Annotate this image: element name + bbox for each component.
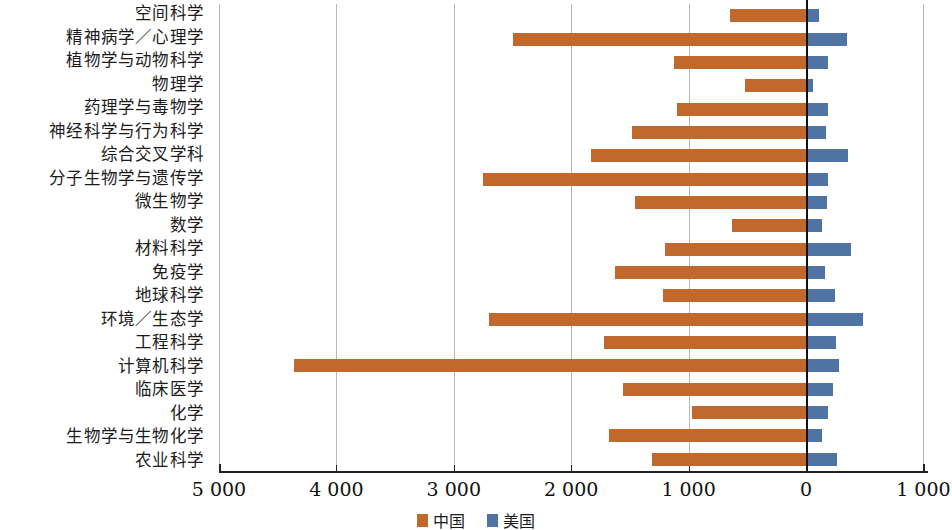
bar-china <box>615 266 806 279</box>
bar-china <box>663 289 806 302</box>
bar-china <box>623 383 806 396</box>
bar-row <box>219 448 927 471</box>
bar-row <box>219 354 927 377</box>
bar-usa <box>806 266 825 279</box>
bar-row <box>219 121 927 144</box>
x-axis-tick-label: 1 000 <box>661 478 715 500</box>
bar-china <box>732 219 806 232</box>
bar-china <box>745 79 806 92</box>
legend-item[interactable]: 中国 <box>417 508 465 530</box>
category-label: 临床医学 <box>0 380 212 400</box>
bar-usa <box>806 406 828 419</box>
legend-swatch-icon <box>417 514 428 527</box>
category-label: 材料科学 <box>0 239 212 259</box>
bar-china <box>677 103 806 116</box>
category-label: 数学 <box>0 216 212 236</box>
category-label: 计算机科学 <box>0 357 212 377</box>
bar-china <box>609 429 806 442</box>
category-label: 神经科学与行为科学 <box>0 122 212 142</box>
category-label: 微生物学 <box>0 192 212 212</box>
bar-usa <box>806 219 822 232</box>
bar-usa <box>806 383 833 396</box>
x-axis-tick-label: 5 000 <box>192 478 246 500</box>
category-label: 生物学与生物化学 <box>0 427 212 447</box>
x-axis-tick-label: 2 000 <box>544 478 598 500</box>
x-axis-tick-label: 3 000 <box>427 478 481 500</box>
bar-row <box>219 51 927 74</box>
legend-label: 中国 <box>433 508 465 530</box>
legend-item[interactable]: 美国 <box>487 508 535 530</box>
bar-china <box>483 173 806 186</box>
bar-rows <box>219 4 927 471</box>
category-label: 地球科学 <box>0 286 212 306</box>
bar-usa <box>806 243 851 256</box>
bar-usa <box>806 149 848 162</box>
bar-row <box>219 401 927 424</box>
bar-row <box>219 97 927 120</box>
bar-row <box>219 331 927 354</box>
bar-china <box>730 9 806 22</box>
bar-usa <box>806 56 828 69</box>
x-axis-tick-label: 4 000 <box>309 478 363 500</box>
category-axis-labels: 空间科学精神病学／心理学植物学与动物科学物理学药理学与毒物学神经科学与行为科学综… <box>0 4 212 471</box>
category-label: 免疫学 <box>0 263 212 283</box>
bar-china <box>591 149 806 162</box>
bar-china <box>674 56 806 69</box>
bar-row <box>219 261 927 284</box>
bar-usa <box>806 173 828 186</box>
bar-china <box>294 359 806 372</box>
bar-row <box>219 308 927 331</box>
bar-china <box>604 336 806 349</box>
category-label: 药理学与毒物学 <box>0 98 212 118</box>
bar-row <box>219 191 927 214</box>
bar-china <box>632 126 806 139</box>
bar-china <box>489 313 806 326</box>
horizontal-bar-chart: 空间科学精神病学／心理学植物学与动物科学物理学药理学与毒物学神经科学与行为科学综… <box>0 0 952 530</box>
x-axis-tick-label: 1 000 <box>896 478 950 500</box>
chart-legend: 中国美国 <box>0 508 952 530</box>
bar-row <box>219 27 927 50</box>
plot-area <box>219 4 927 471</box>
bar-usa <box>806 313 863 326</box>
bar-row <box>219 74 927 97</box>
bar-usa <box>806 359 839 372</box>
bar-china <box>665 243 806 256</box>
bar-usa <box>806 289 835 302</box>
legend-swatch-icon <box>487 514 498 527</box>
bar-row <box>219 214 927 237</box>
category-label: 工程科学 <box>0 333 212 353</box>
bar-row <box>219 144 927 167</box>
bar-row <box>219 378 927 401</box>
bar-china <box>635 196 806 209</box>
x-axis-tick-label: 0 <box>800 478 812 500</box>
x-axis-line <box>219 471 928 473</box>
bar-row <box>219 238 927 261</box>
category-label: 物理学 <box>0 75 212 95</box>
legend-label: 美国 <box>503 508 535 530</box>
bar-china <box>513 33 806 46</box>
bar-china <box>692 406 806 419</box>
category-label: 分子生物学与遗传学 <box>0 169 212 189</box>
bar-row <box>219 4 927 27</box>
zero-axis-line <box>806 0 808 471</box>
bar-usa <box>806 336 836 349</box>
bar-china <box>652 453 806 466</box>
bar-usa <box>806 33 847 46</box>
category-label: 环境／生态学 <box>0 310 212 330</box>
category-label: 精神病学／心理学 <box>0 28 212 48</box>
category-label: 综合交叉学科 <box>0 145 212 165</box>
bar-usa <box>806 103 828 116</box>
bar-row <box>219 284 927 307</box>
bar-usa <box>806 453 837 466</box>
bar-row <box>219 424 927 447</box>
bar-usa <box>806 196 827 209</box>
category-label: 化学 <box>0 404 212 424</box>
bar-usa <box>806 126 826 139</box>
category-label: 植物学与动物科学 <box>0 51 212 71</box>
bar-row <box>219 167 927 190</box>
bar-usa <box>806 429 822 442</box>
category-label: 空间科学 <box>0 4 212 24</box>
category-label: 农业科学 <box>0 451 212 471</box>
